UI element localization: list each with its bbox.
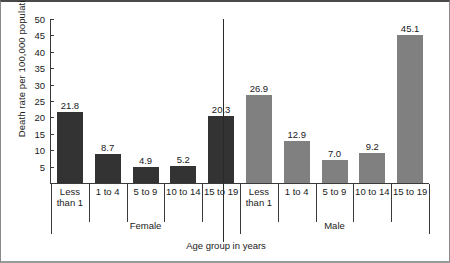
bar-value-label: 12.9 [287,129,306,140]
x-category-label: 15 to 19 [202,184,240,216]
bar-fill [322,160,348,183]
bar: 7.0 [322,160,348,183]
x-cell-separator [278,184,279,222]
y-tick-label: 5 [23,163,45,172]
y-tick-label: 50 [23,15,45,24]
bar: 45.1 [397,35,423,183]
x-cell-separator [202,184,203,222]
group-divider [223,19,224,242]
x-category-label-line: Less [51,186,89,197]
x-category-label-line: 10 to 14 [164,186,202,197]
bar-value-label: 4.9 [139,155,152,166]
bar-fill [95,154,121,183]
bar: 12.9 [284,141,310,183]
x-category-label: 1 to 4 [89,184,127,216]
bar-value-label: 9.2 [366,141,379,152]
x-cell-separator [353,184,354,222]
plot-area: 21.88.74.95.220.326.912.97.09.245.1 [51,19,429,183]
chart-figure: Death rate per 100,000 population 510152… [0,0,450,263]
x-axis-title: Age group in years [1,240,450,251]
x-category-label-line: than 1 [240,197,278,208]
y-tick-label: 20 [23,113,45,122]
x-cell-separator [391,184,392,222]
y-tick-label: 35 [23,64,45,73]
x-category-label: 5 to 9 [127,184,165,216]
x-category-label: 10 to 14 [164,184,202,216]
x-group-label: Male [240,220,429,231]
bar-value-label: 26.9 [250,83,269,94]
bar: 8.7 [95,154,121,183]
bar: 21.8 [57,112,83,184]
bar: 9.2 [359,153,385,183]
bar-fill [246,95,272,183]
bar-value-label: 7.0 [328,148,341,159]
y-tick-label: 45 [23,31,45,40]
x-category-label-line: 10 to 14 [353,186,391,197]
x-category-label: 1 to 4 [278,184,316,216]
x-category-label-line: than 1 [51,197,89,208]
x-category-label-line: 1 to 4 [278,186,316,197]
bar-fill [133,167,159,183]
bar-value-label: 20.3 [212,104,231,115]
x-category-label: 10 to 14 [353,184,391,216]
y-tick-label: 15 [23,130,45,139]
bar: 5.2 [170,166,196,183]
x-category-label-line: 5 to 9 [316,186,354,197]
x-cell-separator [89,184,90,222]
bar-fill [170,166,196,183]
bar-fill [208,116,234,183]
bar: 4.9 [133,167,159,183]
x-category-label-line: 15 to 19 [391,186,429,197]
bar-value-label: 5.2 [177,154,190,165]
x-cell-separator [316,184,317,222]
y-tick-label: 10 [23,146,45,155]
bar-fill [359,153,385,183]
x-category-label: Lessthan 1 [51,184,89,216]
x-category-label: Lessthan 1 [240,184,278,216]
bar-fill [57,112,83,184]
x-category-label-line: 5 to 9 [127,186,165,197]
x-category-label-line: 15 to 19 [202,186,240,197]
bar-value-label: 21.8 [61,100,80,111]
y-tick-label: 30 [23,81,45,90]
x-category-label: 15 to 19 [391,184,429,216]
bar: 26.9 [246,95,272,183]
x-group-separator [51,184,52,234]
y-tick-label: 25 [23,97,45,106]
x-group-label: Female [51,220,240,231]
bar-fill [397,35,423,183]
x-category-label: 5 to 9 [316,184,354,216]
x-group-separator [240,184,241,234]
bar-fill [284,141,310,183]
x-category-label-line: 1 to 4 [89,186,127,197]
bar-value-label: 8.7 [101,142,114,153]
bar: 20.3 [208,116,234,183]
x-cell-separator [164,184,165,222]
x-cell-separator [127,184,128,222]
x-group-separator [429,184,430,234]
bar-value-label: 45.1 [401,23,420,34]
y-tick-label: 40 [23,48,45,57]
x-category-label-line: Less [240,186,278,197]
